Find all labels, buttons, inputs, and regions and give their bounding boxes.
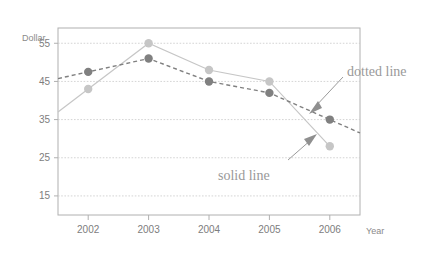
x-tick-label-2002: 2002	[77, 224, 100, 235]
data-point-dotted-line-2005	[265, 89, 273, 97]
x-tick-label-2005: 2005	[258, 224, 281, 235]
data-point-dotted-line-2002	[84, 68, 92, 76]
data-point-dotted-line-2006	[326, 115, 334, 123]
line-chart: 1525354555 20022003200420052006 Dollar Y…	[0, 0, 448, 268]
y-tick-label-25: 25	[39, 152, 51, 163]
x-tick-label-2006: 2006	[319, 224, 342, 235]
x-tick-label-2003: 2003	[137, 224, 160, 235]
y-tick-label-15: 15	[39, 190, 51, 201]
data-point-solid-line-2002	[84, 85, 92, 93]
data-point-dotted-line-2003	[144, 54, 152, 62]
y-axis-title: Dollar	[22, 33, 46, 43]
data-point-solid-line-2004	[205, 66, 213, 74]
x-tick-label-2004: 2004	[198, 224, 221, 235]
data-point-solid-line-2005	[265, 77, 273, 85]
data-point-solid-line-2003	[144, 39, 152, 47]
x-axis-title: Year	[366, 226, 384, 236]
data-point-solid-line-2006	[326, 142, 334, 150]
y-tick-label-35: 35	[39, 114, 51, 125]
data-point-dotted-line-2004	[205, 77, 213, 85]
annotation-solid-label: solid line	[218, 168, 270, 183]
annotation-dotted-label: dotted line	[347, 64, 407, 79]
chart-container: 1525354555 20022003200420052006 Dollar Y…	[0, 0, 448, 268]
y-tick-label-45: 45	[39, 76, 51, 87]
